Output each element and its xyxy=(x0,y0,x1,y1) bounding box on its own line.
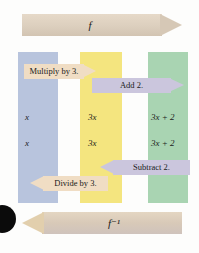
forward-function-label: f xyxy=(22,20,182,31)
operation-arrow-add: Add 2. xyxy=(92,78,184,93)
inverse-function-label: f⁻¹ xyxy=(22,218,182,229)
operation-arrow-divide: Divide by 3. xyxy=(30,176,108,191)
expression-text: x xyxy=(25,112,29,122)
diagram-canvas: f Multiply by 3. Add 2. x 3x 3x + 2 x 3x… xyxy=(0,0,199,253)
expression-text: 3x xyxy=(88,112,97,122)
expression-cell: 3x + 2 xyxy=(151,113,175,122)
output-column xyxy=(148,52,188,203)
expression-text: 3x xyxy=(88,138,97,148)
operation-label-subtract: Subtract 2. xyxy=(100,163,190,172)
operation-label-multiply: Multiply by 3. xyxy=(24,67,96,76)
expression-text: 3x + 2 xyxy=(151,138,175,148)
expression-text: 3x + 2 xyxy=(151,112,175,122)
expression-cell: x xyxy=(25,113,29,122)
operation-label-add: Add 2. xyxy=(92,81,184,90)
page-edge-marker xyxy=(0,205,16,233)
expression-cell: 3x + 2 xyxy=(151,139,175,148)
operation-label-divide: Divide by 3. xyxy=(30,179,108,188)
expression-text: x xyxy=(25,138,29,148)
inverse-function-arrow: f⁻¹ xyxy=(22,212,182,234)
operation-arrow-multiply: Multiply by 3. xyxy=(24,64,96,79)
expression-cell: 3x xyxy=(88,139,97,148)
operation-arrow-subtract: Subtract 2. xyxy=(100,160,190,175)
forward-function-arrow: f xyxy=(22,14,182,36)
expression-cell: 3x xyxy=(88,113,97,122)
expression-cell: x xyxy=(25,139,29,148)
